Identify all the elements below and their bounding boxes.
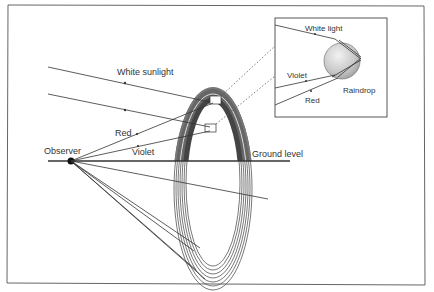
inset-red-label: Red [305,96,320,105]
zoom-leader-lines [216,46,275,124]
arrow-icon [136,133,138,135]
inset-raindrop-label: Raindrop [343,86,376,95]
observer-label: Observer [44,146,81,156]
ground-level-label: Ground level [252,149,303,159]
arrow-icon [305,80,307,82]
arrow-icon [124,109,126,111]
inset-white-light-label: White light [305,24,343,33]
raindrop-box-upper [210,96,221,104]
raindrop-box-lower [205,124,216,132]
violet-label: Violet [132,147,155,157]
arrow-icon [310,90,312,92]
arrow-icon [124,82,126,84]
inset-violet-label: Violet [287,71,308,80]
diagram-canvas: Ground level White sunlight Observer Red… [0,0,434,292]
arrow-icon [314,33,316,35]
red-label: Red [115,128,132,138]
raindrop-inset: White light Violet Red Raindrop [275,18,387,117]
white-sunlight-label: White sunlight [117,67,174,77]
rainbow-diagram: Ground level White sunlight Observer Red… [0,0,434,292]
